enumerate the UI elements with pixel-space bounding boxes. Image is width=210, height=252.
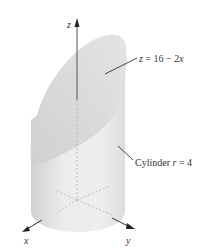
x-axis-arrowhead-icon <box>22 226 30 232</box>
plane-eq-rhs: = 16 − 2 <box>143 53 179 64</box>
z-axis-label: z <box>66 19 71 30</box>
plane-equation-label: z = 16 − 2x <box>138 53 184 64</box>
x-axis-label: x <box>23 235 29 246</box>
z-axis-arrowhead-icon <box>75 18 80 27</box>
x-axis-line <box>27 220 42 229</box>
plane-eq-x: x <box>178 53 184 64</box>
diagram-canvas: z x y z = 16 − 2x Cylinder r = 4 <box>0 0 210 252</box>
cylinder-label-prefix: Cylinder <box>135 157 173 168</box>
cylinder-label-value: = 4 <box>176 157 192 168</box>
cylinder-label: Cylinder r = 4 <box>135 157 192 168</box>
y-axis-arrowhead-icon <box>126 223 135 229</box>
y-axis-label: y <box>125 235 131 246</box>
x-axis <box>22 220 42 232</box>
